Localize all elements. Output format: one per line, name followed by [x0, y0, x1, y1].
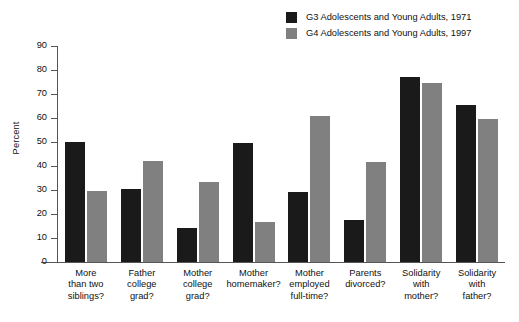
y-tick-label-text: 70 — [17, 89, 47, 98]
y-tick-label-text: 20 — [17, 209, 47, 218]
x-category-label-line: Solidarity — [441, 268, 513, 279]
bar-g3 — [344, 220, 364, 262]
bar-g3 — [65, 142, 85, 262]
bar-g4 — [255, 222, 275, 262]
legend-item-g4: G4 Adolescents and Young Adults, 1997 — [286, 27, 471, 40]
legend-item-g3: G3 Adolescents and Young Adults, 1971 — [286, 11, 471, 24]
bar-chart-figure: G3 Adolescents and Young Adults, 1971 G4… — [0, 0, 519, 322]
y-tick-label: 40 — [14, 161, 47, 171]
y-tick-label-text: 60 — [17, 113, 47, 122]
bar-g4 — [310, 116, 330, 262]
y-tick-mark — [51, 262, 57, 263]
x-category-label-line: father? — [441, 291, 513, 302]
y-tick-label: 30 — [14, 185, 47, 195]
bar-g3 — [400, 77, 420, 262]
y-tick-mark — [51, 118, 57, 119]
legend-swatch-g3 — [286, 12, 297, 23]
bar-g3 — [177, 228, 197, 262]
bar-group — [344, 46, 386, 262]
y-tick-label: 0 — [14, 257, 47, 267]
bar-group — [121, 46, 163, 262]
y-tick-label-text: 80 — [17, 65, 47, 74]
chart-legend: G3 Adolescents and Young Adults, 1971 G4… — [286, 11, 471, 40]
bar-group — [400, 46, 442, 262]
bar-group — [65, 46, 107, 262]
y-tick-label-text: 40 — [17, 161, 47, 170]
bar-g4 — [143, 161, 163, 262]
bar-g4 — [366, 162, 386, 262]
x-category-label: Solidaritywithfather? — [441, 268, 513, 302]
bar-group — [233, 46, 275, 262]
bar-g4 — [478, 119, 498, 262]
y-tick-mark — [51, 142, 57, 143]
y-tick-mark — [51, 190, 57, 191]
bar-g3 — [233, 143, 253, 262]
y-tick-label-text: 90 — [17, 41, 47, 50]
bar-g4 — [87, 191, 107, 262]
plot-area — [58, 46, 505, 262]
y-tick-label-text: 30 — [17, 185, 47, 194]
y-tick-mark — [51, 238, 57, 239]
bar-g3 — [456, 105, 476, 262]
x-category-label-line: full-time? — [274, 291, 346, 302]
x-category-label-line: with — [441, 279, 513, 290]
legend-label-g4: G4 Adolescents and Young Adults, 1997 — [306, 28, 471, 39]
y-tick-mark — [51, 94, 57, 95]
y-tick-mark — [51, 166, 57, 167]
y-tick-mark — [51, 214, 57, 215]
y-tick-label: 70 — [14, 89, 47, 99]
bar-group — [177, 46, 219, 262]
y-tick-label: 10 — [14, 233, 47, 243]
bar-g3 — [288, 192, 308, 262]
y-tick-mark — [51, 46, 57, 47]
y-tick-label: 20 — [14, 209, 47, 219]
y-tick-label-text: 0 — [17, 257, 47, 266]
bar-g4 — [199, 182, 219, 262]
legend-label-g3: G3 Adolescents and Young Adults, 1971 — [306, 12, 471, 23]
x-category-label-line: grad? — [162, 291, 234, 302]
bar-group — [288, 46, 330, 262]
y-tick-label: 90 — [14, 41, 47, 51]
y-tick-mark — [51, 70, 57, 71]
bar-group — [456, 46, 498, 262]
y-tick-label-text: 10 — [17, 233, 47, 242]
y-tick-label: 80 — [14, 65, 47, 75]
y-tick-label: 60 — [14, 113, 47, 123]
bar-g3 — [121, 189, 141, 262]
y-tick-label: 50 — [14, 137, 47, 147]
legend-swatch-g4 — [286, 28, 297, 39]
x-axis-line — [41, 262, 505, 263]
y-tick-label-text: 50 — [17, 137, 47, 146]
bar-g4 — [422, 83, 442, 262]
